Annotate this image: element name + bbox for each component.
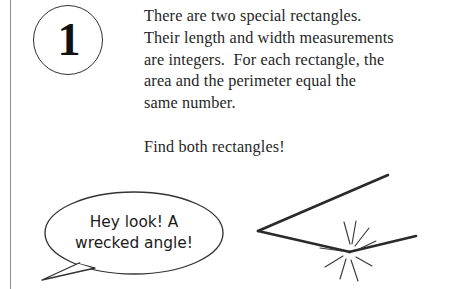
page-margin-rule bbox=[10, 0, 11, 289]
angle-upper-ray bbox=[258, 175, 388, 231]
problem-number-badge: 1 bbox=[33, 5, 103, 75]
break-burst-icon bbox=[320, 221, 376, 281]
worksheet-page: 1 There are two special rectangles. Thei… bbox=[0, 0, 475, 289]
call-to-action-text: Find both rectangles! bbox=[144, 137, 285, 159]
problem-number-label: 1 bbox=[34, 6, 104, 76]
angle-broken-segment bbox=[349, 236, 416, 252]
problem-paragraph: There are two special rectangles. Their … bbox=[144, 6, 470, 115]
speech-bubble-tail bbox=[42, 263, 95, 280]
problem-line-2: Their length and width measurements bbox=[144, 28, 470, 50]
problem-line-5: same number. bbox=[144, 93, 470, 115]
problem-statement: There are two special rectangles. Their … bbox=[144, 6, 470, 115]
problem-line-4: area and the perimeter equal the bbox=[144, 71, 470, 93]
speech-bubble-tail-mask bbox=[80, 259, 96, 268]
problem-line-3: are integers. For each rectangle, the bbox=[144, 50, 470, 72]
speech-bubble-line-1: Hey look! A bbox=[54, 212, 214, 233]
speech-bubble-text: Hey look! A wrecked angle! bbox=[54, 212, 214, 254]
problem-line-1: There are two special rectangles. bbox=[144, 6, 470, 28]
angle-lower-ray bbox=[258, 231, 350, 252]
speech-bubble-line-2: wrecked angle! bbox=[54, 233, 214, 254]
